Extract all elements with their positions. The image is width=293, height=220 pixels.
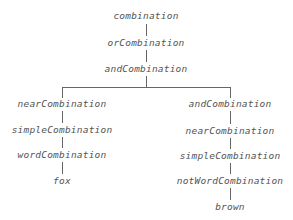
- node-left-leaf-fox: fox: [53, 176, 71, 186]
- node-left-nearcombination: nearCombination: [18, 99, 107, 109]
- edge-right-4: [230, 188, 231, 200]
- parse-tree-diagram: combination orCombination andCombination…: [0, 0, 293, 220]
- edge-left-branch-drop: [62, 87, 63, 98]
- edge-left-1: [62, 111, 63, 123]
- node-left-wordcombination: wordCombination: [18, 150, 107, 160]
- edge-left-3: [62, 162, 63, 174]
- edge-right-1: [230, 111, 231, 124]
- edge-orcombination-andcombination: [146, 50, 147, 62]
- edge-right-3: [230, 163, 231, 174]
- node-right-andcombination: andCombination: [189, 99, 272, 109]
- node-right-notwordcombination: notWordCombination: [177, 176, 284, 186]
- node-right-nearcombination: nearCombination: [186, 126, 275, 136]
- branch-connector: [62, 87, 231, 88]
- node-orcombination: orCombination: [108, 38, 185, 48]
- edge-right-2: [230, 138, 231, 149]
- node-right-simplecombination: simpleCombination: [180, 151, 281, 161]
- node-andcombination-root: andCombination: [105, 64, 188, 74]
- edge-right-branch-drop: [230, 87, 231, 98]
- edge-left-2: [62, 137, 63, 148]
- node-combination: combination: [113, 11, 178, 21]
- edge-combination-orcombination: [146, 24, 147, 36]
- edge-andcombination-split: [146, 76, 147, 87]
- node-left-simplecombination: simpleCombination: [12, 125, 113, 135]
- node-right-leaf-brown: brown: [215, 202, 245, 212]
